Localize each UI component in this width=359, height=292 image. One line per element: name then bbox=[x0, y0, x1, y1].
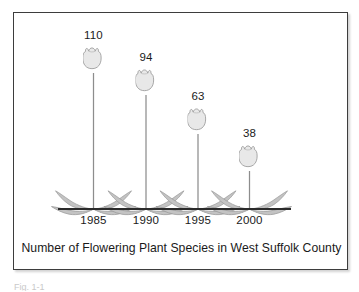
flower-head-1990 bbox=[135, 70, 153, 91]
plot-area: 110 94 63 38 1985 1990 1995 2000 Number … bbox=[14, 13, 349, 271]
value-label-1985: 110 bbox=[74, 29, 114, 41]
plant-2000 bbox=[207, 146, 291, 224]
plant-1985 bbox=[51, 48, 135, 224]
value-label-2000: 38 bbox=[230, 127, 270, 139]
plant-1995 bbox=[156, 109, 240, 224]
flower-head-1995 bbox=[187, 109, 205, 130]
year-label-1985: 1985 bbox=[72, 214, 116, 226]
flower-head-2000 bbox=[239, 146, 257, 167]
chart-frame: 110 94 63 38 1985 1990 1995 2000 Number … bbox=[13, 12, 348, 270]
value-label-1995: 63 bbox=[178, 90, 218, 102]
year-label-1995: 1995 bbox=[176, 214, 220, 226]
year-label-2000: 2000 bbox=[228, 214, 272, 226]
year-label-1990: 1990 bbox=[124, 214, 168, 226]
figure-root: 110 94 63 38 1985 1990 1995 2000 Number … bbox=[0, 0, 359, 292]
pictograph-svg bbox=[14, 13, 349, 271]
flower-head-1985 bbox=[83, 48, 101, 69]
value-label-1990: 94 bbox=[126, 51, 166, 63]
chart-caption: Number of Flowering Plant Species in Wes… bbox=[14, 241, 349, 255]
page-footnote: Fig. 1-1 bbox=[14, 282, 164, 291]
